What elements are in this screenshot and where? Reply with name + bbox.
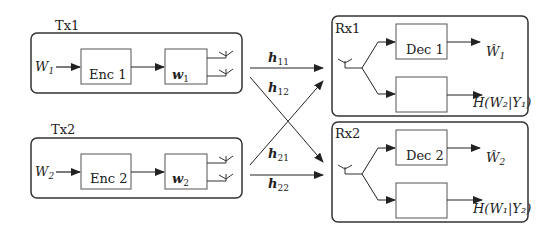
- rx2-decoder-label: Dec 2: [406, 148, 444, 163]
- rx2-equivocation-box: [396, 183, 447, 218]
- tx2-input-symbol: W2: [35, 164, 54, 181]
- tx2-label: Tx2: [51, 122, 75, 137]
- tx2-precoder-label: w2: [172, 171, 189, 188]
- tx1-input-symbol: W1: [35, 59, 54, 76]
- tx2-frame: [31, 138, 242, 198]
- rx2-block: Rx2 Dec 2 Ŵ2 H(W₁|Y₂): [332, 122, 531, 222]
- channel-h11-label: h11: [268, 50, 289, 67]
- tx1-precoder-label: w1: [172, 67, 189, 84]
- rx2-equivocation-label: H(W₁|Y₂): [472, 201, 531, 216]
- rx2-splitter: [362, 148, 395, 200]
- channel-h21-label: h21: [268, 146, 289, 163]
- tx1-encoder-label: Enc 1: [89, 67, 127, 82]
- tx2-block: Tx2 W2 Enc 2 w2: [31, 122, 242, 198]
- diagram-canvas: Tx1 W1 Enc 1 w1 Tx2 W2 Enc 2 w2: [0, 0, 554, 234]
- rx1-equivocation-box: [396, 77, 447, 112]
- tx1-block: Tx1 W1 Enc 1 w1: [31, 18, 242, 93]
- rx2-output-estimate: Ŵ2: [486, 150, 505, 167]
- rx1-output-estimate: Ŵ1: [486, 44, 505, 61]
- tx2-antenna-icon: [207, 156, 233, 181]
- tx1-label: Tx1: [55, 18, 79, 33]
- rx1-equivocation-label: H(W₂|Y₁): [472, 95, 531, 110]
- tx1-antenna-icon: [207, 51, 233, 76]
- rx1-splitter: [362, 42, 395, 94]
- rx1-label: Rx1: [335, 21, 360, 36]
- rx1-decoder-label: Dec 1: [406, 42, 444, 57]
- channel-h22-label: h22: [268, 176, 289, 193]
- rx1-block: Rx1 Dec 1 Ŵ1 H(W₂|Y₁): [332, 16, 531, 116]
- tx1-frame: [31, 33, 242, 93]
- rx2-label: Rx2: [335, 126, 360, 141]
- rx1-antenna-icon: [338, 59, 362, 68]
- tx2-encoder-label: Enc 2: [90, 171, 128, 186]
- rx2-antenna-icon: [338, 165, 362, 174]
- channel-h12-label: h12: [268, 80, 289, 97]
